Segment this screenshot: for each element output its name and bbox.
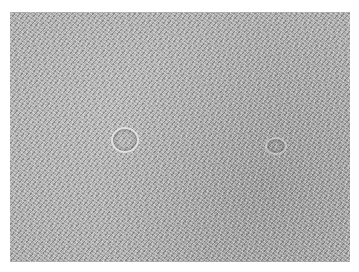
circular-structure — [111, 127, 139, 153]
micrograph-image — [10, 12, 350, 262]
secondary-structure — [265, 137, 287, 155]
